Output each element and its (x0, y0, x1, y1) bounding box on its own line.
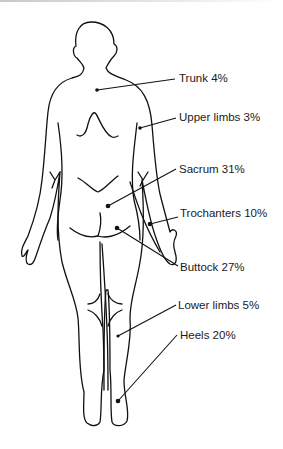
leader-upper-limbs (138, 118, 176, 130)
right-knee-crease (108, 294, 122, 326)
label-trochanters: Trochanters 10% (180, 208, 267, 220)
left-knee-crease (88, 294, 102, 326)
label-buttock: Buttock 27% (180, 262, 245, 274)
label-trunk: Trunk 4% (179, 73, 228, 85)
shoulder-blades (77, 113, 118, 138)
lower-back-curve (78, 176, 118, 192)
label-lower-limbs: Lower limbs 5% (178, 300, 259, 312)
gluteal-cleft (98, 213, 101, 236)
label-heels: Heels 20% (180, 330, 236, 342)
body-outline-figure (0, 0, 283, 449)
label-upper-limbs: Upper limbs 3% (179, 112, 260, 124)
leader-lower-limbs (116, 305, 176, 338)
leader-sacrum (106, 169, 176, 208)
right-arm-inner-line (132, 123, 140, 240)
leader-buttock (115, 226, 178, 266)
label-sacrum: Sacrum 31% (179, 164, 245, 176)
